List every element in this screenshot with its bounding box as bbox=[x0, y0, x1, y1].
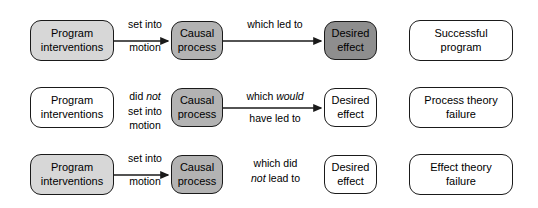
node-program-interventions[interactable]: Program interventions bbox=[30, 87, 114, 128]
connector-label-set-into-motion: set into motion bbox=[116, 151, 174, 188]
connector-label-line-2: not lead to bbox=[228, 171, 323, 186]
node-outcome-process-theory-failure[interactable]: Process theory failure bbox=[409, 87, 513, 128]
connector-label-line-1: set into bbox=[116, 151, 174, 166]
italic-not: not bbox=[251, 172, 266, 184]
node-line-2: effect bbox=[337, 175, 364, 189]
connector-label-line-2: have led to bbox=[226, 111, 324, 126]
node-line-2: effect bbox=[337, 41, 364, 55]
node-line-1: Program bbox=[51, 94, 93, 108]
node-desired-effect[interactable]: Desired effect bbox=[324, 88, 377, 127]
node-line-2: program bbox=[441, 41, 482, 55]
node-line-2: failure bbox=[446, 108, 476, 122]
node-line-1: Desired bbox=[332, 27, 370, 41]
node-program-interventions[interactable]: Program interventions bbox=[30, 154, 114, 195]
node-line-1: Process theory bbox=[424, 94, 497, 108]
node-outcome-successful-program[interactable]: Successful program bbox=[409, 20, 513, 61]
connector-label-line-1: which led to bbox=[226, 17, 324, 32]
diagram-row-process-theory-failure: Program interventions did not set into m… bbox=[0, 84, 538, 146]
node-line-1: Program bbox=[51, 27, 93, 41]
causal-chain-diagram: Program interventions set into motion Ca… bbox=[0, 0, 538, 208]
connector-label-line-2: motion bbox=[116, 174, 174, 189]
connector-label-line-2: motion bbox=[116, 40, 174, 55]
node-line-2: process bbox=[178, 175, 217, 189]
node-desired-effect[interactable]: Desired effect bbox=[324, 21, 377, 60]
node-line-1: Causal bbox=[180, 161, 214, 175]
node-line-2: interventions bbox=[41, 175, 103, 189]
connector-label-line-1: did not bbox=[116, 89, 174, 104]
node-line-2: process bbox=[178, 41, 217, 55]
connector-label-set-into-motion: set into motion bbox=[116, 17, 174, 54]
node-causal-process[interactable]: Causal process bbox=[171, 155, 223, 194]
node-line-2: process bbox=[178, 108, 217, 122]
node-line-1: Causal bbox=[180, 27, 214, 41]
diagram-row-effect-theory-failure: Program interventions set into motion Ca… bbox=[0, 151, 538, 208]
node-line-2: interventions bbox=[41, 41, 103, 55]
node-line-2: effect bbox=[337, 108, 364, 122]
node-line-1: Program bbox=[51, 161, 93, 175]
node-program-interventions[interactable]: Program interventions bbox=[30, 20, 114, 61]
connector-label-gap bbox=[116, 166, 174, 174]
connector-label-which-led-to: which led to bbox=[226, 17, 324, 32]
connector-label-did-not-set-into-motion: did not set into motion bbox=[116, 89, 174, 133]
connector-label-line-3: motion bbox=[116, 118, 174, 133]
node-line-1: Successful bbox=[434, 27, 487, 41]
connector-label-line-2: set into bbox=[116, 104, 174, 119]
connector-label-gap bbox=[116, 32, 174, 40]
connector-label-which-did-not-lead-to: which did not lead to bbox=[228, 156, 323, 185]
node-line-1: Desired bbox=[332, 94, 370, 108]
node-desired-effect[interactable]: Desired effect bbox=[324, 155, 377, 194]
node-line-1: Causal bbox=[180, 94, 214, 108]
connector-label-which-would-have-led-to: which would have led to bbox=[226, 89, 324, 125]
italic-would: would bbox=[276, 90, 303, 102]
connector-label-line-1: which would bbox=[226, 89, 324, 104]
node-causal-process[interactable]: Causal process bbox=[171, 88, 223, 127]
connector-label-line-1: set into bbox=[116, 17, 174, 32]
connector-label-gap bbox=[226, 104, 324, 111]
node-line-2: interventions bbox=[41, 108, 103, 122]
italic-not: not bbox=[146, 90, 161, 102]
node-line-1: Effect theory bbox=[430, 161, 492, 175]
connector-label-line-1: which did bbox=[228, 156, 323, 171]
node-line-2: failure bbox=[446, 175, 476, 189]
node-line-1: Desired bbox=[332, 161, 370, 175]
node-outcome-effect-theory-failure[interactable]: Effect theory failure bbox=[409, 154, 513, 195]
diagram-row-successful-program: Program interventions set into motion Ca… bbox=[0, 17, 538, 79]
node-causal-process[interactable]: Causal process bbox=[171, 21, 223, 60]
